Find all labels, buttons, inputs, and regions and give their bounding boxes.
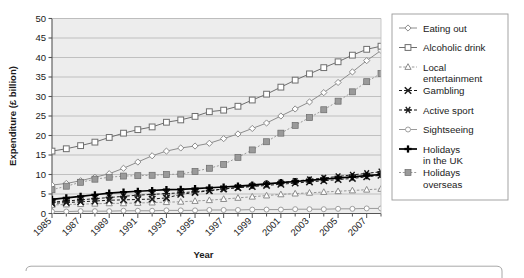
y-axis-title: Expenditure (£ billion) [7,66,18,166]
legend-marker [406,127,411,132]
y-axis-tick-label: 5 [41,188,46,199]
data-point [278,84,284,90]
data-point [206,165,212,171]
data-point [235,154,241,160]
legend-label: Alcoholic drink [423,42,486,53]
data-point [364,46,370,52]
data-point [92,176,98,182]
data-point [49,148,55,154]
data-point [178,208,183,213]
legend-label: Eating out [423,23,467,34]
data-point [206,109,212,115]
data-point [135,127,141,133]
x-axis-tick-label: 1995 [174,215,197,238]
data-point [278,207,283,212]
data-point [321,65,327,71]
data-point [92,209,97,214]
data-point [78,143,84,149]
data-point [163,172,169,178]
data-point [192,168,198,174]
caption-box-top-edge [26,266,502,278]
data-point [193,208,198,213]
data-point [150,208,155,213]
y-axis-tick-label: 30 [35,91,46,102]
data-point [78,209,83,214]
data-point [292,122,298,128]
legend-label-line2: entertainment [423,73,483,84]
data-point [49,187,55,193]
data-point [250,207,255,212]
data-point [135,173,141,179]
legend-label: Gambling [423,85,464,96]
legend-label: Holidays [423,144,460,155]
x-axis-tick-label: 1999 [231,215,254,238]
data-point [121,208,126,213]
data-point [306,115,312,121]
data-point [106,174,112,180]
x-axis-title: Year [193,249,213,260]
data-point [307,207,312,212]
data-point [121,130,127,136]
data-point [335,59,341,65]
x-axis-tick-label: 1997 [202,215,225,238]
data-point [307,71,313,77]
data-point [178,117,184,123]
data-point [264,139,270,145]
data-point [178,171,184,177]
data-point [106,135,112,141]
y-axis-tick-label: 25 [35,110,46,121]
data-point [78,179,84,185]
data-point [292,77,298,83]
data-point [349,52,355,58]
data-point [293,207,298,212]
legend-label: Sightseeing [423,124,474,135]
data-point [63,146,69,152]
x-axis-tick-label: 1987 [59,215,82,238]
data-point [207,207,212,212]
data-point [264,91,270,97]
data-point [235,103,241,109]
y-axis-tick-label: 50 [35,13,46,24]
data-point [350,206,355,211]
data-point [149,124,155,130]
data-point [364,79,370,85]
legend-label: Local [423,62,446,73]
x-axis-tick-label: 2003 [288,215,311,238]
data-point [135,208,140,213]
data-point [336,206,341,211]
x-axis-tick-label: 1985 [31,215,54,238]
x-axis-tick-label: 1989 [88,215,111,238]
data-point [335,98,341,104]
data-point [249,97,255,103]
legend-marker [405,45,411,51]
legend-label: Active sport [423,105,474,116]
chart-legend: Eating outAlcoholic drinkLocalentertainm… [392,14,508,200]
data-point [364,206,369,211]
data-point [221,107,227,113]
data-point [264,207,269,212]
data-point [249,147,255,153]
y-axis: 05101520253035404550 [35,13,52,219]
data-point [149,172,155,178]
data-point [235,207,240,212]
data-point [321,107,327,113]
legend-label-line2: overseas [423,179,462,190]
data-point [221,207,226,212]
data-point [278,130,284,136]
y-axis-tick-label: 35 [35,71,46,82]
x-axis-tick-label: 2001 [260,215,283,238]
legend-label: Holidays [423,167,460,178]
data-point [107,209,112,214]
data-point [321,207,326,212]
y-axis-tick-label: 45 [35,32,46,43]
data-point [63,183,69,189]
y-axis-tick-label: 15 [35,149,46,160]
data-point [164,119,170,125]
expenditure-line-chart: 05101520253035404550Expenditure (£ billi… [0,0,524,278]
x-axis-tick-label: 1991 [117,215,140,238]
legend-marker [405,170,411,176]
chart-figure: 05101520253035404550Expenditure (£ billi… [0,0,524,278]
y-axis-tick-label: 20 [35,130,46,141]
legend-label-line2: in the UK [423,155,463,166]
y-axis-tick-label: 10 [35,169,46,180]
